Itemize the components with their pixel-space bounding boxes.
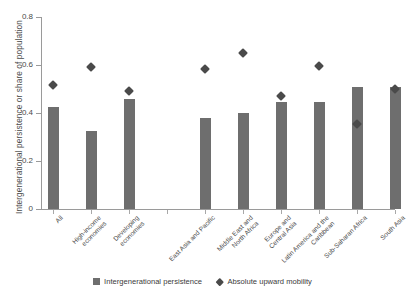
legend-diamond-marker-icon <box>216 278 224 286</box>
y-tick-label: 0.2 <box>5 157 33 165</box>
x-tick-mark <box>395 210 396 214</box>
legend-label-intergenerational-persistence: Intergenerational persistence <box>104 277 202 286</box>
bar <box>314 102 325 209</box>
x-tick-mark <box>167 210 168 214</box>
legend-item-absolute-upward-mobility: Absolute upward mobility <box>216 277 312 286</box>
bar <box>390 87 401 209</box>
bar <box>124 99 135 209</box>
legend-label-absolute-upward-mobility: Absolute upward mobility <box>228 277 312 286</box>
x-tick-mark <box>357 210 358 214</box>
x-tick-mark <box>205 210 206 214</box>
x-tick-mark <box>243 210 244 214</box>
data-point-marker <box>238 48 248 58</box>
y-tick-mark <box>36 17 41 18</box>
x-axis-line <box>41 209 395 210</box>
bar <box>48 107 59 209</box>
data-point-marker <box>124 86 134 96</box>
bar <box>86 131 97 209</box>
x-tick-mark <box>281 210 282 214</box>
y-tick-mark <box>36 161 41 162</box>
y-tick-label: 0.8 <box>5 13 33 21</box>
x-tick-mark <box>53 210 54 214</box>
legend-square-swatch-icon <box>93 278 100 285</box>
y-tick-label: 0.6 <box>5 61 33 69</box>
data-point-marker <box>48 80 58 90</box>
y-tick-mark <box>36 65 41 66</box>
bar <box>352 87 363 209</box>
y-tick-label: 0.4 <box>5 109 33 117</box>
bar <box>200 118 211 209</box>
y-tick-label: 0 <box>5 205 33 213</box>
chart-legend: Intergenerational persistence Absolute u… <box>0 277 405 286</box>
bar <box>238 113 249 209</box>
x-tick-mark <box>319 210 320 214</box>
y-axis-line <box>41 17 42 210</box>
y-axis-title: Intergenerational persistence or share o… <box>14 12 24 222</box>
data-point-marker <box>276 91 286 101</box>
y-tick-mark <box>36 209 41 210</box>
data-point-marker <box>200 64 210 74</box>
x-tick-mark <box>129 210 130 214</box>
bar <box>276 102 287 209</box>
x-tick-mark <box>91 210 92 214</box>
data-point-marker <box>86 62 96 72</box>
data-point-marker <box>314 61 324 71</box>
y-tick-mark <box>36 113 41 114</box>
legend-item-intergenerational-persistence: Intergenerational persistence <box>93 277 202 286</box>
